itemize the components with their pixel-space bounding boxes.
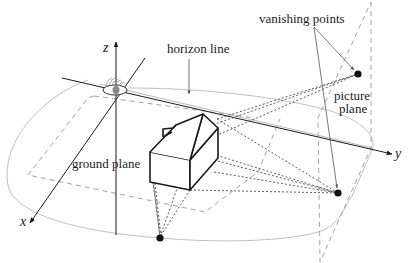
vanishing-point-bottom <box>156 234 163 241</box>
picture-plane-label-line2: plane <box>339 101 367 116</box>
vanishing-points-label: vanishing points <box>259 11 345 26</box>
vanishing-point-pointer-upper <box>314 27 354 70</box>
house <box>150 114 218 190</box>
z-axis-label: z <box>102 40 109 55</box>
perspective-diagram: y x z <box>0 0 409 263</box>
vanishing-point-upper <box>354 70 361 77</box>
picture-plane <box>318 2 371 262</box>
y-axis-label: y <box>393 146 402 161</box>
vanishing-point-lower <box>334 189 341 196</box>
eye-icon <box>103 78 127 95</box>
ground-plane-label: ground plane <box>72 156 140 171</box>
x-axis <box>30 58 145 223</box>
horizon-line-label: horizon line <box>167 41 230 56</box>
x-axis-label: x <box>19 214 27 229</box>
